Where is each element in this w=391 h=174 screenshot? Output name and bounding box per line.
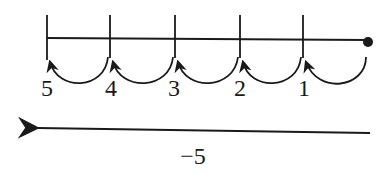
number-line [47,38,368,40]
tick-label-2: 2 [234,75,246,101]
tick-label-4: 4 [105,75,117,101]
jump-arc-3 [178,57,238,83]
jump-arc-1 [306,57,366,84]
start-point-dot [363,37,373,47]
tick-label-5: 5 [41,75,53,101]
tick-labels: 5 4 3 2 1 [41,75,310,101]
jump-arc-5 [50,57,108,83]
result-arrow [38,128,370,133]
jump-arcs [50,57,366,84]
tick-label-3: 3 [168,75,180,101]
number-line-diagram: 5 4 3 2 1 −5 [0,0,391,174]
jump-arc-4 [113,57,173,83]
tick-label-1: 1 [298,75,310,101]
result-label: −5 [180,143,206,169]
jump-arc-2 [243,57,301,83]
